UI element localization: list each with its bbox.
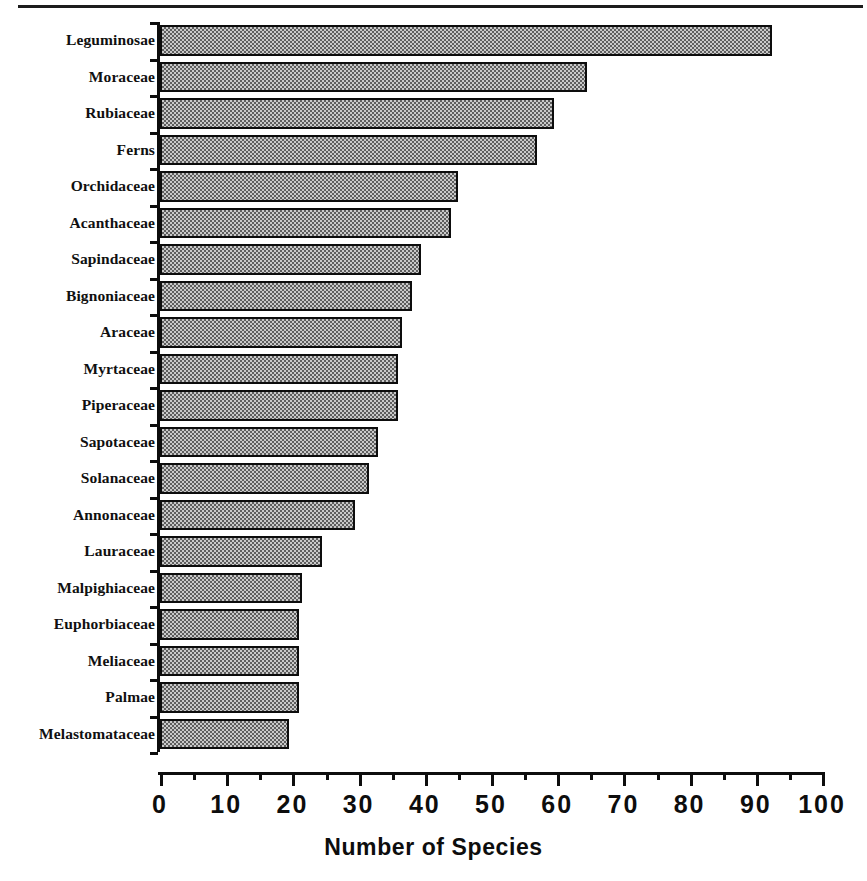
plot-area: LeguminosaeMoraceaeRubiaceaeFernsOrchida… — [0, 22, 867, 772]
top-divider-rule — [18, 5, 863, 8]
bar-row: Piperaceae — [0, 387, 867, 424]
bar — [160, 354, 398, 385]
x-axis-major-tick — [160, 772, 163, 786]
x-axis-title: Number of Species — [0, 834, 867, 861]
bar-row: Moraceae — [0, 59, 867, 96]
category-label: Solanaceae — [81, 469, 155, 487]
x-axis-major-tick — [359, 772, 362, 786]
bar-row: Sapotaceae — [0, 424, 867, 461]
category-label: Meliaceae — [88, 652, 155, 670]
bar — [160, 427, 378, 458]
bar-row: Annonaceae — [0, 497, 867, 534]
x-axis-tick-label: 80 — [674, 790, 706, 819]
category-label: Acanthaceae — [70, 214, 155, 232]
bar — [160, 244, 421, 275]
bar-row: Acanthaceae — [0, 205, 867, 242]
species-bar-chart: LeguminosaeMoraceaeRubiaceaeFernsOrchida… — [0, 0, 867, 881]
bar — [160, 463, 369, 494]
x-axis-major-tick — [822, 772, 825, 786]
x-axis-major-tick — [491, 772, 494, 786]
bar-row: Bignoniaceae — [0, 278, 867, 315]
bar-row: Meliaceae — [0, 643, 867, 680]
category-label: Lauraceae — [84, 542, 155, 560]
bar-row: Euphorbiaceae — [0, 606, 867, 643]
bar — [160, 208, 451, 239]
category-label: Myrtaceae — [84, 360, 155, 378]
category-label: Piperaceae — [82, 396, 155, 414]
bar — [160, 135, 537, 166]
category-label: Euphorbiaceae — [54, 615, 155, 633]
bar-row: Leguminosae — [0, 22, 867, 59]
category-label: Sapindaceae — [71, 250, 155, 268]
bar — [160, 682, 299, 713]
category-label: Palmae — [105, 688, 155, 706]
bar-row: Solanaceae — [0, 460, 867, 497]
x-axis-minor-tick — [789, 772, 792, 780]
x-axis-minor-tick — [723, 772, 726, 780]
x-axis-minor-tick — [326, 772, 329, 780]
x-axis-tick-label: 100 — [798, 790, 846, 819]
x-axis-minor-tick — [590, 772, 593, 780]
bar-row: Araceae — [0, 314, 867, 351]
bar — [160, 646, 299, 677]
bar — [160, 500, 355, 531]
bar — [160, 25, 772, 56]
bar-row: Orchidaceae — [0, 168, 867, 205]
x-axis-major-tick — [425, 772, 428, 786]
x-axis-minor-tick — [657, 772, 660, 780]
bar — [160, 98, 554, 129]
category-label: Bignoniaceae — [66, 287, 155, 305]
x-axis-minor-tick — [458, 772, 461, 780]
x-axis-tick-label: 40 — [409, 790, 441, 819]
x-axis-tick-label: 0 — [152, 790, 168, 819]
bar — [160, 317, 402, 348]
x-axis-major-tick — [557, 772, 560, 786]
bar-row: Ferns — [0, 132, 867, 169]
category-label: Malpighiaceae — [57, 579, 155, 597]
bar — [160, 171, 458, 202]
bar — [160, 390, 398, 421]
category-label: Rubiaceae — [85, 104, 155, 122]
x-axis-major-tick — [226, 772, 229, 786]
category-label: Leguminosae — [66, 31, 155, 49]
x-axis-minor-tick — [524, 772, 527, 780]
x-axis-tick-label: 90 — [740, 790, 772, 819]
bar-row: Sapindaceae — [0, 241, 867, 278]
category-label: Orchidaceae — [71, 177, 155, 195]
bar-row: Palmae — [0, 679, 867, 716]
x-axis-tick-label: 70 — [607, 790, 639, 819]
bar — [160, 609, 299, 640]
y-axis-tick — [150, 752, 158, 755]
category-label: Ferns — [117, 141, 155, 159]
x-axis-tick-label: 10 — [210, 790, 242, 819]
bar — [160, 573, 302, 604]
bar — [160, 719, 289, 750]
x-axis-tick-label: 60 — [541, 790, 573, 819]
x-axis-major-tick — [690, 772, 693, 786]
x-axis-major-tick — [623, 772, 626, 786]
category-label: Araceae — [100, 323, 155, 341]
category-label: Moraceae — [89, 68, 155, 86]
x-axis-minor-tick — [259, 772, 262, 780]
x-axis-major-tick — [756, 772, 759, 786]
x-axis-tick-label: 50 — [475, 790, 507, 819]
bar-row: Lauraceae — [0, 533, 867, 570]
category-label: Melastomataceae — [39, 725, 155, 743]
bar-rows: LeguminosaeMoraceaeRubiaceaeFernsOrchida… — [0, 22, 867, 752]
bar — [160, 62, 587, 93]
x-axis: 0102030405060708090100 Number of Species — [0, 772, 867, 881]
x-axis-minor-tick — [392, 772, 395, 780]
x-axis-tick-label: 20 — [276, 790, 308, 819]
bar-row: Malpighiaceae — [0, 570, 867, 607]
x-axis-major-tick — [292, 772, 295, 786]
category-label: Sapotaceae — [80, 433, 155, 451]
x-axis-minor-tick — [193, 772, 196, 780]
category-label: Annonaceae — [73, 506, 155, 524]
bar — [160, 281, 412, 312]
bar-row: Myrtaceae — [0, 351, 867, 388]
bar-row: Melastomataceae — [0, 716, 867, 753]
bar — [160, 536, 322, 567]
x-axis-tick-label: 30 — [343, 790, 375, 819]
bar-row: Rubiaceae — [0, 95, 867, 132]
